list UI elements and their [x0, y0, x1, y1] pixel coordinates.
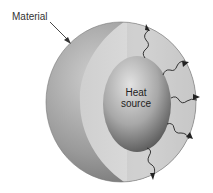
material-pointer-arrowhead [64, 37, 71, 44]
material-label: Material [12, 11, 48, 22]
material-pointer-line [50, 22, 69, 41]
heat-label-line1: Heat [118, 87, 154, 98]
heat-label-line2: source [112, 98, 160, 109]
sphere-diagram [0, 0, 213, 193]
